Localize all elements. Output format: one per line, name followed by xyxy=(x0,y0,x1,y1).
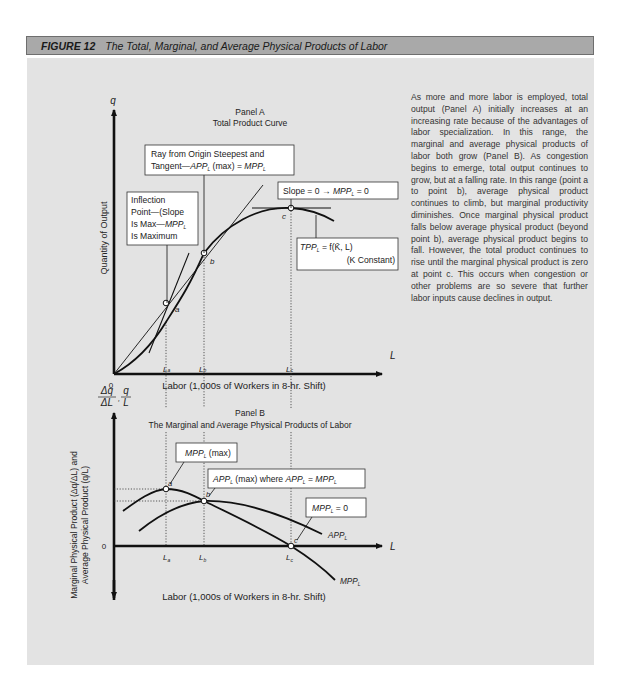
panel-b-y-symbol: Δq ΔL , q L xyxy=(98,385,131,408)
panel-b-x-symbol: L xyxy=(390,541,396,552)
panel-b: Δq ΔL , q L Panel B The Marginal and Ave… xyxy=(69,385,396,602)
tick-lc: Lc xyxy=(286,365,293,374)
panel-a-y-symbol: q xyxy=(110,95,116,106)
panel-b-x-label: Labor (1,000s of Workers in 8-hr. Shift) xyxy=(162,591,326,602)
svg-text:Point—(Slope: Point—(Slope xyxy=(131,207,184,217)
panel-a-title: Panel A xyxy=(235,107,265,117)
tick-b-la: La xyxy=(163,553,170,563)
svg-text:MPPL (max): MPPL (max) xyxy=(185,448,231,459)
annotation-mppmax-box: MPPL (max) xyxy=(176,443,237,462)
svg-text:Inflection: Inflection xyxy=(131,195,166,205)
panel-b-y-label-1: Marginal Physical Product (Δq/ΔL) and xyxy=(69,451,79,599)
annotation-slope-box: Slope = 0 → MPPL = 0 xyxy=(278,182,398,199)
leader-mppmax xyxy=(170,462,184,484)
panel-b-title: Panel B xyxy=(235,408,265,418)
point-b-c-label: c xyxy=(294,536,298,545)
annotation-inflection-box: Inflection Point—(Slope Is Max—MPPL Is M… xyxy=(127,192,198,245)
svg-text:Slope = 0 → MPPL = 0: Slope = 0 → MPPL = 0 xyxy=(283,186,369,197)
svg-text:Δq: Δq xyxy=(100,385,114,396)
svg-text:ΔL: ΔL xyxy=(100,397,113,408)
annotation-mppzero-box: MPPL = 0 xyxy=(306,498,366,517)
panel-a: Panel A Total Product Curve q L 0 Quanti… xyxy=(99,95,398,408)
point-b-c-marker xyxy=(288,543,294,549)
svg-text:Ray from Origin Steepest and: Ray from Origin Steepest and xyxy=(151,149,264,159)
annotation-appmax-box: APPL (max) where APPL = MPPL xyxy=(208,469,365,488)
point-c-label: c xyxy=(282,212,286,221)
panel-b-origin: 0 xyxy=(102,542,107,551)
tick-b-lb: Lb xyxy=(199,553,206,563)
app-curve-label: APPL xyxy=(327,531,347,541)
panel-a-y-label: Quantity of Output xyxy=(99,201,109,275)
point-b-b-label: b xyxy=(206,490,210,499)
svg-text:TPPL = f(K̄, L): TPPL = f(K̄, L) xyxy=(300,242,353,253)
point-b-b-marker xyxy=(201,498,207,504)
point-a-label: a xyxy=(175,305,180,314)
point-b-label: b xyxy=(210,257,215,266)
tick-lb: Lb xyxy=(199,365,206,374)
svg-text:Is Maximum: Is Maximum xyxy=(131,231,177,241)
svg-text:MPPL = 0: MPPL = 0 xyxy=(312,503,348,514)
mpp-curve-label: MPPL xyxy=(340,577,361,587)
svg-text:Is Max—MPPL: Is Max—MPPL xyxy=(131,219,187,230)
svg-text:,: , xyxy=(118,394,120,403)
svg-text:(K Constant): (K Constant) xyxy=(347,255,395,265)
svg-text:L: L xyxy=(123,397,129,408)
tick-b-lc: Lc xyxy=(286,553,293,563)
panel-b-subtitle: The Marginal and Average Physical Produc… xyxy=(148,420,351,430)
annotation-ray-box: Ray from Origin Steepest and Tangent—APP… xyxy=(145,145,294,175)
point-a-marker xyxy=(163,300,169,306)
panel-a-x-symbol: L xyxy=(390,350,396,361)
annotation-tpp-box: TPPL = f(K̄, L) (K Constant) xyxy=(297,238,398,270)
tick-la: La xyxy=(163,365,170,374)
panel-b-y-label-2: Average Physical Product (q/L) xyxy=(80,466,90,584)
app-curve xyxy=(139,501,322,534)
panel-a-subtitle: Total Product Curve xyxy=(213,118,288,128)
chart-svg: Panel A Total Product Curve q L 0 Quanti… xyxy=(0,0,636,684)
panel-a-x-label: Labor (1,000s of Workers in 8-hr. Shift) xyxy=(162,380,326,391)
svg-text:q: q xyxy=(123,385,129,396)
